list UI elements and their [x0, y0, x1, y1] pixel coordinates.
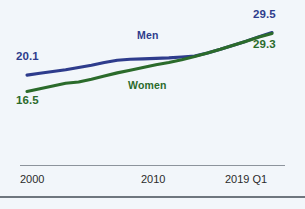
series-label-women: Women — [128, 79, 167, 91]
men-start-value-label: 20.1 — [16, 50, 39, 62]
women-start-value-label: 16.5 — [16, 94, 39, 106]
women-end-value-label: 29.3 — [253, 38, 276, 50]
x-axis-tick-2000: 2000 — [20, 173, 44, 185]
men-end-value-label: 29.5 — [253, 8, 276, 20]
x-axis-tick-2010: 2010 — [141, 173, 165, 185]
line-chart: 20.1 29.5 16.5 29.3 Men Women 2000 2010 … — [0, 0, 305, 209]
x-axis-tick-2019-q1: 2019 Q1 — [225, 173, 267, 185]
x-axis-rule — [20, 165, 285, 166]
footer-rule — [0, 196, 305, 198]
series-label-men: Men — [137, 29, 159, 41]
